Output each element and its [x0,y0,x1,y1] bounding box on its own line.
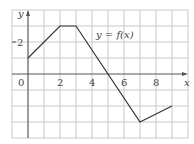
x-tick-6: 6 [121,77,127,88]
x-axis-arrow-icon [182,72,188,76]
origin-label: 0 [18,77,24,88]
x-axis-label: x [184,77,190,88]
y-axis-arrow-icon [26,10,30,16]
y-tick-2: 2 [17,37,23,48]
x-tick-4: 4 [89,77,95,88]
curve-label: y = f(x) [95,29,134,40]
x-tick-2: 2 [57,77,63,88]
graph: y x 0 2 4 6 8 2 y = f(x) [0,0,194,144]
x-tick-8: 8 [153,77,159,88]
y-axis-label: y [17,8,24,19]
